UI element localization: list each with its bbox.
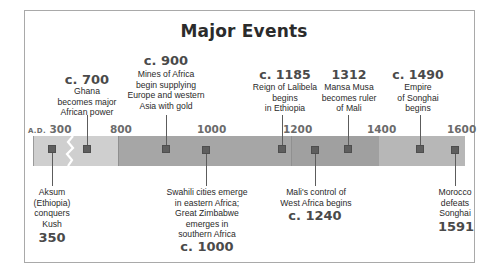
marker-mansa-musa [344, 145, 352, 153]
marker-gold-mines [162, 145, 170, 153]
connector-morocco [455, 152, 456, 186]
event-desc-morocco: Morocco defeats Songhai [434, 187, 476, 219]
connector-lalibela [282, 115, 283, 145]
event-desc-songhai: Empire of Songhai begins [391, 82, 444, 114]
event-desc-lalibela: Reign of Lalibela begins in Ethiopia [248, 82, 322, 114]
timeline-segment-middle-right [292, 136, 379, 166]
axis-tick-800: 800 [110, 123, 132, 135]
connector-songhai [420, 115, 421, 145]
axis-tick-1600: 1600 [447, 123, 476, 135]
bar-tick-1200 [291, 136, 292, 166]
connector-ghana [87, 115, 88, 145]
marker-ghana [83, 145, 91, 153]
event-year-swahili: c. 1000 [176, 239, 238, 254]
marker-songhai [416, 145, 424, 153]
event-desc-ghana: Ghana becomes major African power [55, 86, 119, 118]
axis-tick-1400: 1400 [367, 123, 396, 135]
timeline-break-icon [62, 136, 78, 166]
axis-prefix-ad: A.D. [28, 127, 46, 135]
event-desc-mali: Mali's control of West Africa begins [276, 187, 357, 208]
connector-gold-mines [166, 115, 167, 145]
bar-tick-800 [118, 136, 119, 166]
event-year-mansa-musa: 1312 [321, 67, 377, 82]
connector-aksum [52, 152, 53, 186]
event-desc-gold-mines: Mines of Africa begin supplying Europe a… [126, 69, 207, 111]
event-year-aksum: 350 [32, 230, 72, 245]
marker-swahili [202, 146, 210, 154]
axis-tick-1000: 1000 [197, 123, 226, 135]
event-desc-swahili: Swahili cities emerge in eastern Africa;… [162, 187, 252, 240]
marker-lalibela [278, 145, 286, 153]
connector-swahili [206, 152, 207, 186]
marker-mali [311, 146, 319, 154]
marker-aksum [48, 145, 56, 153]
axis-tick-300: A.D. 300 [28, 123, 71, 135]
event-year-lalibela: c. 1185 [252, 67, 318, 82]
axis-tick-1200: 1200 [283, 123, 312, 135]
event-year-morocco: 1591 [437, 219, 475, 234]
event-year-mali: c. 1240 [282, 208, 348, 223]
event-desc-mansa-musa: Mansa Musa becomes ruler of Mali [317, 82, 381, 114]
marker-morocco [451, 146, 459, 154]
event-desc-aksum: Aksum (Ethiopia) conquers Kush [29, 187, 75, 229]
bar-tick-300 [33, 136, 34, 166]
event-year-songhai: c. 1490 [386, 67, 450, 82]
event-year-gold-mines: c. 900 [135, 53, 197, 68]
timeline-title: Major Events [0, 21, 488, 41]
connector-mansa-musa [348, 115, 349, 145]
connector-mali [315, 152, 316, 186]
